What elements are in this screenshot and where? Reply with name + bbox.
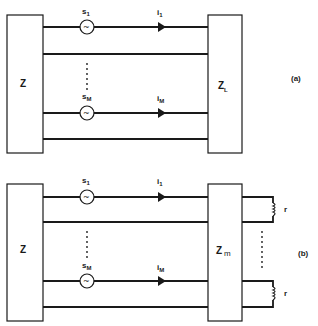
resistor-label-r1: r: [284, 205, 287, 214]
resistor-load-1: [242, 197, 275, 222]
current-arrow-i1-a: [158, 22, 166, 32]
resistor-icon: [273, 203, 275, 216]
source-label-sm-b: sM: [82, 261, 91, 271]
panel-tag-b: (b): [298, 249, 309, 258]
current-arrow-im-b: [158, 276, 166, 286]
ac-source-icon: ~: [83, 277, 90, 286]
zl-block-a: [208, 15, 242, 153]
current-label-im-a: iM: [157, 94, 164, 104]
ellipsis-dots-a: [86, 63, 88, 90]
ac-source-icon: ~: [83, 193, 90, 202]
ellipsis-dots-b: [86, 231, 88, 258]
current-label-i1-a: i1: [157, 8, 163, 18]
ellipsis-dots-loads: [261, 231, 263, 268]
source-label-sm-a: sM: [82, 92, 91, 102]
resistor-icon: [273, 287, 275, 300]
z-label-a: Z: [20, 78, 26, 89]
current-label-i1-b: i1: [157, 177, 163, 187]
panel-b: Z Zm ~ s1 ~ sM i1 iM r: [7, 176, 309, 321]
current-arrow-i1-b: [158, 192, 166, 202]
source-label-s1-b: s1: [82, 176, 90, 186]
panel-tag-a: (a): [291, 74, 301, 83]
resistor-label-rm: r: [284, 289, 287, 298]
ac-source-icon: ~: [83, 109, 90, 118]
panel-a: Z ZL ~ s1 ~ sM i1 iM (a): [7, 7, 301, 153]
resistor-load-m: [242, 281, 275, 307]
current-label-im-b: iM: [157, 263, 164, 273]
circuit-diagram: Z ZL ~ s1 ~ sM i1 iM (a): [0, 0, 318, 326]
z-label-b: Z: [20, 244, 26, 255]
source-label-s1-a: s1: [82, 7, 90, 17]
current-arrow-im-a: [158, 108, 166, 118]
ac-source-icon: ~: [83, 23, 90, 32]
